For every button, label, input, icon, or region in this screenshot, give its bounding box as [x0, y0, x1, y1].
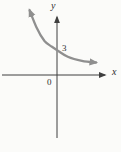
- y-axis-label: y: [51, 1, 55, 11]
- x-axis-label: x: [112, 67, 116, 77]
- graph-canvas: [0, 0, 121, 152]
- origin-label: 0: [47, 77, 52, 87]
- exponential-curve: [30, 10, 96, 62]
- y-intercept-label: 3: [62, 43, 67, 53]
- function-graph-figure: y x 3 0: [0, 0, 121, 152]
